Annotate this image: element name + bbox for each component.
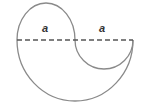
diagram-canvas: a a xyxy=(0,0,141,107)
lower-right-arc xyxy=(75,40,133,69)
left-radius-label: a xyxy=(42,22,48,34)
large-outer-arc xyxy=(17,40,133,101)
right-radius-label: a xyxy=(99,22,105,34)
